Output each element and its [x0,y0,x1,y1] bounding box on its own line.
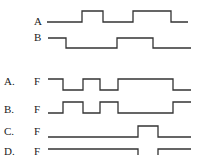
waveform-option-c [48,126,191,137]
waveform-a [47,11,188,22]
timing-diagram [0,0,204,155]
waveform-option-a [48,79,191,90]
waveform-b [48,38,191,48]
waveform-option-d [48,149,191,155]
waveform-option-b [48,102,191,113]
